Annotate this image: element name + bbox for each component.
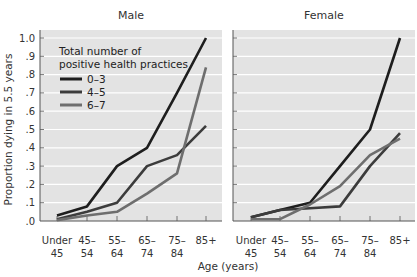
x-tick-label: 65–74 bbox=[331, 235, 349, 259]
y-tick-label: .4 bbox=[25, 142, 35, 153]
legend-label: 6–7 bbox=[87, 99, 106, 111]
y-tick-label: .6 bbox=[25, 106, 35, 117]
y-tick-label: .7 bbox=[25, 87, 35, 98]
x-tick-label: Under45 bbox=[42, 235, 73, 259]
panel-title: Male bbox=[118, 9, 144, 22]
panel-female: FemaleUnder4545–5455–6465–7475–8485+ bbox=[233, 9, 415, 259]
x-tick-label: 75–84 bbox=[361, 235, 379, 259]
y-axis-title: Proportion dying in 5.5 years bbox=[2, 54, 14, 206]
x-tick-label: 55–64 bbox=[301, 235, 319, 259]
y-tick-label: .9 bbox=[25, 51, 35, 62]
y-tick-label: 1.0 bbox=[19, 33, 35, 44]
legend-label: 0–3 bbox=[87, 73, 106, 85]
panel-title: Female bbox=[304, 9, 344, 22]
x-tick-label: 45–54 bbox=[78, 235, 96, 259]
x-tick-label: 75–84 bbox=[168, 235, 186, 259]
legend-title: Total number of bbox=[58, 45, 142, 57]
y-tick-label: .0 bbox=[25, 216, 35, 227]
x-axis-title: Age (years) bbox=[198, 260, 259, 272]
x-tick-label: 65–74 bbox=[138, 235, 156, 259]
x-tick-label: 55–64 bbox=[108, 235, 126, 259]
y-tick-label: .1 bbox=[25, 197, 35, 208]
y-tick-label: .8 bbox=[25, 69, 35, 80]
x-tick-label: Under45 bbox=[236, 235, 267, 259]
legend-title: positive health practices bbox=[59, 58, 188, 70]
legend-label: 4–5 bbox=[87, 86, 106, 98]
x-tick-label: 45–54 bbox=[271, 235, 289, 259]
y-tick-label: .3 bbox=[25, 161, 35, 172]
x-tick-label: 85+ bbox=[389, 235, 410, 246]
chart: MaleUnder4545–5455–6465–7475–8485+Female… bbox=[0, 0, 417, 277]
x-tick-label: 85+ bbox=[195, 235, 216, 246]
y-tick-label: .2 bbox=[25, 179, 35, 190]
y-tick-label: .5 bbox=[25, 124, 35, 135]
plot-background bbox=[233, 30, 415, 221]
